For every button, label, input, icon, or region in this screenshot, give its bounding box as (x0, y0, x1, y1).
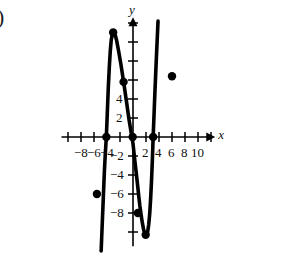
graph-figure: ) −8−6−424681042−2−4−6−8xy (0, 0, 291, 266)
y-tick-label: −2 (110, 149, 124, 162)
y-tick-label: −4 (110, 168, 124, 181)
x-tick-label: −6 (87, 146, 101, 159)
data-point[interactable] (128, 133, 136, 141)
y-tick-label: −8 (110, 206, 124, 219)
data-point[interactable] (168, 72, 176, 80)
data-point[interactable] (141, 231, 149, 239)
data-point[interactable] (134, 209, 142, 217)
data-point[interactable] (102, 133, 110, 141)
x-tick-label: 6 (168, 146, 175, 159)
y-tick-label: 2 (116, 111, 123, 124)
coordinate-plot (0, 0, 291, 266)
x-tick-label: −8 (74, 146, 88, 159)
x-tick-label: 2 (142, 146, 149, 159)
x-tick-label: 4 (155, 146, 162, 159)
x-axis-label: x (218, 128, 224, 141)
x-tick-label: 8 (181, 146, 188, 159)
data-point[interactable] (119, 78, 127, 86)
y-axis-label: y (129, 3, 135, 16)
y-tick-label: 4 (116, 92, 123, 105)
data-point[interactable] (93, 190, 101, 198)
data-point[interactable] (109, 28, 117, 36)
data-point[interactable] (149, 133, 157, 141)
x-tick-label: 10 (191, 146, 204, 159)
y-tick-label: −6 (110, 187, 124, 200)
y-axis-arrow (129, 17, 138, 26)
